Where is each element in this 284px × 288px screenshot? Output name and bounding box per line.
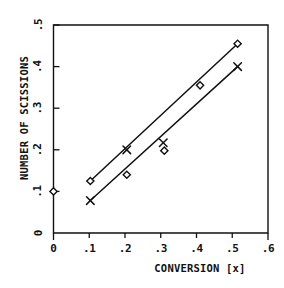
y-tick-label: .1 — [32, 184, 45, 197]
diamond-marker — [161, 147, 168, 154]
x-marker — [234, 63, 242, 71]
diamond-marker — [123, 171, 130, 178]
data-markers — [50, 40, 242, 204]
x-tick-label: 0 — [50, 242, 56, 255]
y-axis-tick-labels: 0.1.2.3.4.5 — [32, 19, 45, 236]
y-axis-ticks — [54, 25, 60, 191]
x-tick-label: .6 — [262, 242, 275, 255]
diamond-trend — [90, 44, 237, 181]
x-marker — [87, 197, 95, 205]
diamond-marker — [196, 82, 203, 89]
y-tick-label: 0 — [32, 230, 45, 236]
x-axis-title: CONVERSION [x] — [154, 262, 245, 274]
x-marker — [159, 139, 167, 147]
plot-axes — [54, 25, 269, 233]
y-tick-label: .4 — [32, 60, 45, 73]
x-axis-ticks — [54, 233, 269, 240]
y-tick-label: .3 — [32, 102, 45, 115]
y-tick-label: .5 — [32, 19, 45, 32]
x-tick-label: .4 — [190, 242, 203, 255]
x-tick-label: .1 — [83, 242, 96, 255]
y-axis-title: NUMBER OF SCISSIONS — [18, 56, 30, 180]
x-tick-label: .3 — [154, 242, 167, 255]
cross-trend — [90, 67, 237, 201]
chart-figure: 0.1.2.3.4.5.6 0.1.2.3.4.5 CONVERSION [x]… — [0, 0, 284, 288]
x-axis-tick-labels: 0.1.2.3.4.5.6 — [50, 242, 275, 255]
diamond-marker — [50, 188, 57, 195]
x-tick-label: .5 — [226, 242, 239, 255]
trend-lines — [90, 44, 237, 201]
plot-frame — [54, 25, 269, 233]
y-tick-label: .2 — [32, 143, 45, 156]
scatter-plot: 0.1.2.3.4.5.6 0.1.2.3.4.5 CONVERSION [x]… — [0, 0, 284, 288]
x-tick-label: .2 — [119, 242, 132, 255]
